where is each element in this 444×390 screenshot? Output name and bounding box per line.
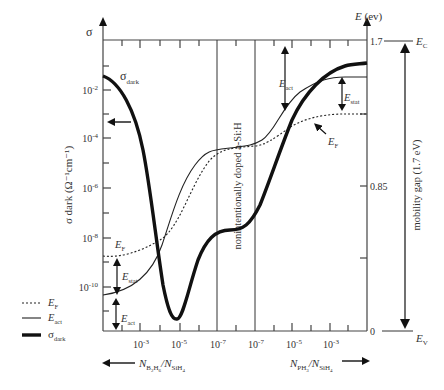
mobility-gap-label: mobility gap (1.7 eV)	[411, 139, 423, 230]
eact-label-left: Eact	[120, 313, 135, 326]
left-axis-tick-labels: 10-2 10-4 10-6 10-8 10-10	[79, 84, 99, 293]
x-left-label: NB2H6/NSiH4	[138, 357, 185, 373]
ef-right-pointer-icon	[317, 126, 326, 134]
svg-text:10-5: 10-5	[171, 338, 187, 350]
ef-label-left: EF	[114, 239, 125, 252]
svg-text:10-10: 10-10	[79, 281, 99, 293]
eact-right-up-icon	[281, 46, 289, 54]
sigma-axis-symbol: σ	[86, 25, 93, 39]
energy-tick-0-85: 0.85	[370, 181, 388, 192]
top-axis-ticks	[122, 40, 348, 48]
x-right-label: NPH3/NSiH4	[289, 357, 333, 373]
legend: EF Eact σdark	[22, 297, 66, 342]
sigma-dark-label: σdark	[120, 69, 139, 86]
energy-tick-0: 0	[370, 326, 375, 337]
svg-text:10-7: 10-7	[248, 338, 264, 350]
gap-arrow-down-icon	[400, 319, 410, 329]
svg-text:10-3: 10-3	[133, 338, 149, 350]
legend-label-ef: EF	[47, 297, 58, 310]
svg-text:10-5: 10-5	[286, 338, 302, 350]
svg-text:10-3: 10-3	[323, 338, 339, 350]
eact-right-down-icon	[281, 103, 289, 111]
ef-label-right: EF	[327, 136, 338, 149]
ec-label: EC	[415, 35, 428, 50]
estat-left-up-icon	[113, 258, 121, 266]
estat-label-right: Estat	[343, 92, 360, 105]
conductivity-doping-diagram: 10-2 10-4 10-6 10-8 10-10 σ σ dark (Ω⁻¹c…	[0, 0, 444, 390]
svg-text:10-6: 10-6	[82, 182, 98, 194]
eact-left-down-icon	[112, 323, 120, 330]
gap-arrow-up-icon	[400, 43, 410, 53]
left-axis-arrow-icon	[99, 17, 107, 26]
ev-label: EV	[415, 332, 428, 347]
legend-label-sigma: σdark	[48, 328, 66, 342]
estat-right-up-icon	[338, 77, 346, 84]
bottom-axis-ticks	[122, 323, 348, 331]
svg-text:10-4: 10-4	[82, 132, 98, 144]
svg-text:10-2: 10-2	[82, 84, 98, 96]
right-axis-ticks	[360, 114, 367, 258]
energy-tick-1-7: 1.7	[370, 36, 383, 47]
eact-left-up-icon	[112, 298, 120, 305]
svg-text:10-8: 10-8	[82, 232, 98, 244]
left-axis-title: σ dark (Ω⁻¹cm⁻¹)	[62, 146, 75, 224]
svg-text:10-7: 10-7	[210, 338, 226, 350]
legend-label-eact: Eact	[47, 312, 62, 325]
left-axis-ticks	[103, 66, 111, 311]
bottom-axis-tick-labels: 10-3 10-5 10-7 10-7 10-5 10-3	[133, 338, 339, 350]
energy-axis-title: E (ev)	[354, 10, 383, 23]
estat-label-left: Estat	[121, 271, 138, 284]
estat-right-down-icon	[338, 104, 346, 111]
